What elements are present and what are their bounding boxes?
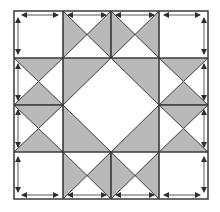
center-square-in-square (63, 58, 159, 152)
quilt-block-diagram (0, 0, 220, 212)
